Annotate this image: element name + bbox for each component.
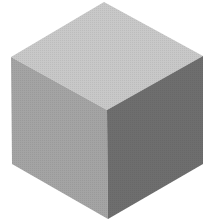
cube-illustration: [0, 0, 213, 221]
halftone-texture: [11, 2, 203, 219]
